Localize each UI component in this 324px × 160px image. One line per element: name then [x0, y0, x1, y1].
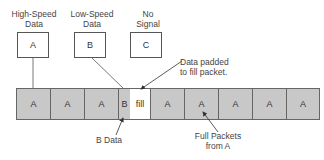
arrow-full-packets [203, 112, 218, 132]
annotation-full-packets: Full Packets from A [186, 131, 250, 151]
annotation-full-line2: from A [186, 141, 250, 151]
annotation-b-data: B Data [96, 135, 136, 145]
annotation-padded-line1: Data padded [180, 57, 250, 67]
arrow-padded [141, 61, 182, 89]
connector-lines [0, 0, 324, 160]
annotation-padded: Data padded to fill packet. [180, 57, 250, 77]
line-b-to-strip [92, 58, 123, 88]
annotation-padded-line2: to fill packet. [180, 67, 250, 77]
arrow-bdata [116, 118, 123, 135]
annotation-full-line1: Full Packets [186, 131, 250, 141]
